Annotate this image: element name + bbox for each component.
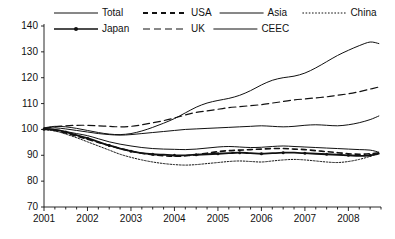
legend-label-uk: UK xyxy=(191,24,205,34)
x-axis-tick-label: 2002 xyxy=(73,214,101,224)
chart-axes xyxy=(41,24,381,211)
y-axis-tick-label: 100 xyxy=(2,124,38,134)
x-axis-tick-label: 2004 xyxy=(160,214,188,224)
y-axis-tick-label: 90 xyxy=(2,150,38,160)
legend-label-china: China xyxy=(350,8,376,18)
chart-series-layer xyxy=(43,42,379,165)
y-axis-tick-label: 80 xyxy=(2,176,38,186)
x-axis-tick-label: 2003 xyxy=(117,214,145,224)
y-axis-tick-label: 140 xyxy=(2,21,38,31)
y-axis-tick-label: 120 xyxy=(2,73,38,83)
line-chart-plot xyxy=(0,0,395,239)
legend-label-japan: Japan xyxy=(102,24,129,34)
legend-label-usa: USA xyxy=(191,8,212,18)
legend-marker-japan xyxy=(74,27,78,31)
x-axis-tick-label: 2008 xyxy=(334,214,362,224)
y-axis-tick-label: 110 xyxy=(2,99,38,109)
x-axis-tick-label: 2005 xyxy=(204,214,232,224)
x-axis-tick-label: 2001 xyxy=(30,214,58,224)
series-ceec xyxy=(44,42,379,135)
x-axis-tick-label: 2007 xyxy=(291,214,319,224)
series-uk xyxy=(44,87,379,128)
legend-label-asia: Asia xyxy=(268,8,287,18)
legend-label-ceec: CEEC xyxy=(261,24,289,34)
chart-container: 7080901001101201301402001200220032004200… xyxy=(0,0,395,239)
x-axis-tick-label: 2006 xyxy=(247,214,275,224)
legend-label-total: Total xyxy=(102,8,123,18)
y-axis-tick-label: 70 xyxy=(2,202,38,212)
y-axis-tick-label: 130 xyxy=(2,47,38,57)
